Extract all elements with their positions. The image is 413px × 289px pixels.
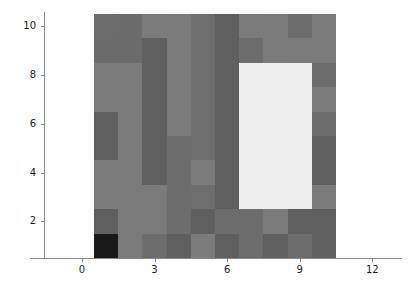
heatmap-cell [288,38,312,62]
x-tick-mark [82,258,83,262]
heatmap-cell [288,160,312,184]
heatmap-cell [118,87,142,111]
heatmap-cell [94,112,118,136]
heatmap-cell [167,63,191,87]
heatmap-cell [288,63,312,87]
heatmap-cell [118,160,142,184]
heatmap-cell [142,38,166,62]
heatmap-cell [239,209,263,233]
heatmap-cell [312,209,336,233]
heatmap-cell [191,136,215,160]
heatmap-cell [167,112,191,136]
heatmap-cell [239,14,263,38]
heatmap-cell [167,38,191,62]
heatmap-cell [191,234,215,258]
heatmap-cell [142,185,166,209]
heatmap-cell [239,63,263,87]
heatmap-cell [215,87,239,111]
heatmap-cell [288,87,312,111]
heatmap-cell [167,136,191,160]
heatmap-cell [191,14,215,38]
plot-area [94,14,336,258]
heatmap-cell [215,112,239,136]
heatmap-cell [239,38,263,62]
x-tick-label: 6 [207,264,247,276]
y-tick-label: 6 [0,118,36,130]
heatmap-cell [191,160,215,184]
heatmap-cell [94,38,118,62]
heatmap-cell [239,87,263,111]
heatmap-cell [263,112,287,136]
heatmap-cell [288,136,312,160]
heatmap-cell [288,112,312,136]
x-tick-mark [155,258,156,262]
y-tick-mark [41,221,45,222]
heatmap-cell [94,136,118,160]
heatmap-cell [118,63,142,87]
heatmap-cell [142,234,166,258]
y-tick-label: 10 [0,20,36,32]
heatmap-cell [118,38,142,62]
heatmap-cell [312,234,336,258]
heatmap-cell [263,87,287,111]
heatmap-cell [215,234,239,258]
heatmap-cell [312,38,336,62]
x-tick-mark [372,258,373,262]
heatmap-cell [263,160,287,184]
heatmap-cell [263,63,287,87]
heatmap-cell [312,63,336,87]
heatmap-cell [312,14,336,38]
heatmap-cell [239,234,263,258]
heatmap-cell [288,234,312,258]
heatmap-cell [263,209,287,233]
heatmap-cell [94,160,118,184]
heatmap-cell [239,185,263,209]
heatmap-cell [94,14,118,38]
heatmap-cell [118,209,142,233]
heatmap-cell [312,160,336,184]
heatmap-cell [312,185,336,209]
heatmap-cell [312,112,336,136]
heatmap-cell [191,38,215,62]
heatmap-cell [94,185,118,209]
heatmap-cell [94,87,118,111]
heatmap-cell [191,112,215,136]
x-tick-mark [300,258,301,262]
x-axis-spine [30,258,402,259]
heatmap-cell [167,14,191,38]
heatmap-cell [94,209,118,233]
y-tick-mark [41,75,45,76]
heatmap-cell [239,112,263,136]
heatmap-cell [142,63,166,87]
x-tick-label: 12 [352,264,392,276]
heatmap-cell [142,160,166,184]
heatmap-figure: 036912 246810 [0,0,413,289]
heatmap-cell [167,209,191,233]
heatmap-cell [288,185,312,209]
heatmap-cell [215,38,239,62]
heatmap-cell [142,87,166,111]
y-tick-mark [41,26,45,27]
heatmap-cell [215,63,239,87]
heatmap-cell [215,136,239,160]
heatmap-cell [142,14,166,38]
heatmap-cell [167,234,191,258]
y-tick-label: 4 [0,167,36,179]
heatmap-cell [94,234,118,258]
heatmap-cell [118,185,142,209]
heatmap-cell [215,209,239,233]
heatmap-cell [215,14,239,38]
heatmap-cell [118,112,142,136]
x-tick-label: 3 [135,264,175,276]
heatmap-cell [142,136,166,160]
x-tick-label: 0 [62,264,102,276]
heatmap-cell [312,87,336,111]
heatmap-cell [142,112,166,136]
heatmap-cell [263,136,287,160]
heatmap-cell [167,185,191,209]
x-tick-mark [227,258,228,262]
heatmap-cell [191,87,215,111]
heatmap-cell [263,38,287,62]
heatmap-cell [263,185,287,209]
heatmap-cell [94,63,118,87]
